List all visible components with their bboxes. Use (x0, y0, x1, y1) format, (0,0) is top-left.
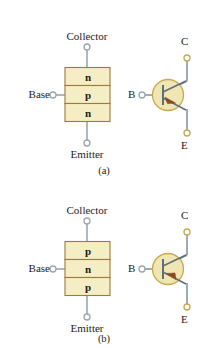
layer-letter-top: n (65, 72, 111, 83)
structure-base-label: Base (16, 89, 50, 100)
symbol-emitter-label: E (181, 314, 188, 325)
symbol-base-node (139, 266, 145, 272)
layer-letter-bottom: p (65, 282, 111, 293)
symbol-base-label: B (128, 89, 135, 100)
emitter-terminal-node (84, 314, 90, 320)
structure-collector-label: Collector (0, 205, 174, 216)
symbol-collector-label: C (181, 210, 188, 221)
layer-letter-middle: p (65, 90, 111, 101)
symbol-collector-node (184, 55, 190, 61)
layer-letter-top: p (65, 246, 111, 257)
figure-panel-b: Collector Emitter Base p n p C E B (0, 174, 208, 348)
symbol-base-label: B (128, 263, 135, 274)
panel-a-drawing (0, 0, 208, 174)
symbol-collector-node (184, 229, 190, 235)
figure-panel-a: Collector Emitter Base n p n C E B (0, 0, 208, 174)
symbol-emitter-node (184, 304, 190, 310)
structure-base-label: Base (16, 263, 50, 274)
panel-b-drawing (0, 174, 208, 348)
panel-b-stage: Collector Emitter Base p n p C E B (0, 174, 208, 348)
collector-terminal-node (84, 44, 90, 50)
structure-collector-label: Collector (0, 31, 174, 42)
symbol-emitter-node (184, 130, 190, 136)
collector-terminal-node (84, 218, 90, 224)
emitter-terminal-node (84, 140, 90, 146)
structure-emitter-label: Emitter (0, 149, 174, 160)
symbol-collector-label: C (181, 36, 188, 47)
symbol-base-node (139, 92, 145, 98)
base-terminal-node (50, 266, 56, 272)
layer-letter-middle: n (65, 264, 111, 275)
panel-a-stage: Collector Emitter Base n p n C E B (0, 0, 208, 174)
caption-b: (b) (0, 333, 208, 344)
symbol-emitter-label: E (181, 140, 188, 151)
layer-letter-bottom: n (65, 108, 111, 119)
base-terminal-node (50, 92, 56, 98)
